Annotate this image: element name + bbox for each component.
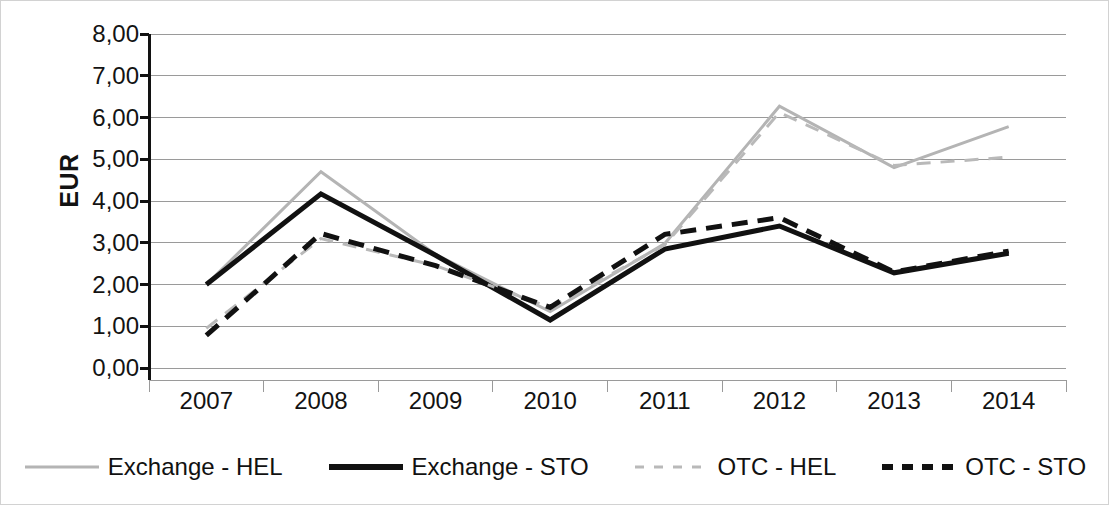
legend-swatch-icon [882,460,956,474]
series-lines [206,106,1008,335]
x-tick-label: 2013 [834,387,954,415]
legend-item[interactable]: Exchange - STO [329,453,589,481]
x-tick-label: 2011 [605,387,725,415]
chart-container: EUR 8,007,006,005,004,003,002,001,000,00… [0,0,1109,505]
chart-legend: Exchange - HELExchange - STOOTC - HELOTC… [1,453,1109,481]
series-line-0 [206,106,1008,311]
x-tick-label: 2009 [376,387,496,415]
legend-swatch-icon [25,460,99,474]
x-tick-label: 2012 [719,387,839,415]
x-tick-label: 2010 [490,387,610,415]
legend-item[interactable]: OTC - HEL [635,453,837,481]
x-tick-label: 2007 [146,387,266,415]
legend-item[interactable]: Exchange - HEL [25,453,283,481]
legend-swatch-icon [329,460,403,474]
series-line-1 [206,194,1008,320]
x-tick-label: 2008 [261,387,381,415]
legend-label: Exchange - STO [412,453,589,481]
series-line-2 [206,112,1008,328]
legend-item[interactable]: OTC - STO [882,453,1086,481]
x-tick-label: 2014 [949,387,1069,415]
legend-swatch-icon [635,460,709,474]
plot-area [1,1,1109,505]
legend-label: OTC - STO [965,453,1086,481]
legend-label: Exchange - HEL [108,453,283,481]
legend-label: OTC - HEL [718,453,837,481]
gridlines [149,34,1066,368]
